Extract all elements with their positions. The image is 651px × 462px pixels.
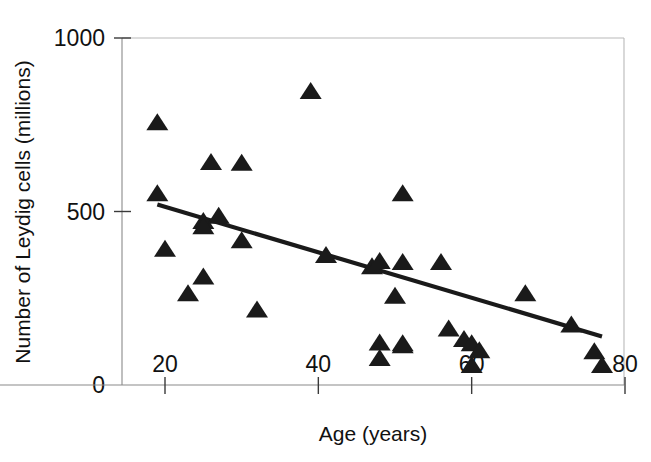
y-tick-label: 1000: [54, 25, 105, 51]
data-point-series: [146, 82, 613, 373]
data-point-marker: [392, 336, 414, 353]
x-tick-label: 20: [152, 351, 178, 377]
data-point-marker: [208, 207, 230, 224]
data-point-marker: [200, 153, 222, 170]
x-axis-tick-labels: 20406080: [152, 351, 638, 377]
data-point-marker: [384, 287, 406, 304]
x-axis: 20406080 Age (years): [0, 351, 638, 445]
data-point-marker: [514, 284, 536, 301]
x-tick-label: 80: [612, 351, 638, 377]
data-point-marker: [146, 184, 168, 201]
data-point-marker: [192, 268, 214, 285]
leydig-cells-scatter-chart: 05001000 Number of Leydig cells (million…: [0, 0, 651, 462]
data-point-marker: [177, 284, 199, 301]
y-tick-label: 500: [67, 199, 105, 225]
data-point-marker: [154, 240, 176, 257]
data-point-marker: [438, 320, 460, 337]
x-axis-title: Age (years): [319, 422, 428, 445]
data-point-marker: [392, 253, 414, 270]
data-point-marker: [300, 82, 322, 99]
x-tick-label: 40: [306, 351, 332, 377]
data-point-marker: [315, 246, 337, 263]
data-point-marker: [369, 349, 391, 366]
data-point-marker: [246, 301, 268, 318]
data-point-marker: [146, 113, 168, 130]
y-axis-title: Number of Leydig cells (millions): [11, 60, 34, 363]
data-point-marker: [231, 154, 253, 171]
y-axis-tick-labels: 05001000: [54, 25, 105, 398]
data-point-marker: [369, 334, 391, 351]
scatter-plot-figure: 05001000 Number of Leydig cells (million…: [0, 0, 651, 462]
plot-frame: [122, 38, 624, 385]
data-point-marker: [392, 184, 414, 201]
y-axis: 05001000 Number of Leydig cells (million…: [11, 25, 131, 398]
data-point-marker: [430, 253, 452, 270]
